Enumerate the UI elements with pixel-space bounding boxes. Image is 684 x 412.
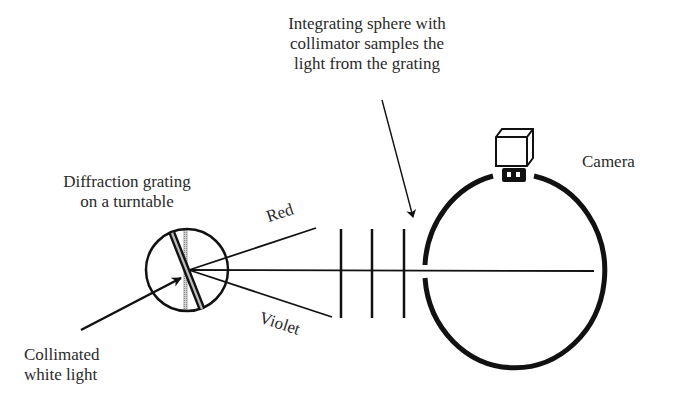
violet-ray-line (189, 270, 332, 317)
input-caption-line-2: white light (24, 365, 100, 385)
grating-caption-line-2: on a turntable (22, 192, 232, 212)
camera-label: Camera (582, 152, 635, 172)
camera-icon (496, 129, 533, 182)
sphere-caption-line-1: Integrating sphere with (262, 14, 472, 34)
sphere-caption-arrow (382, 100, 413, 217)
grating-caption: Diffraction grating on a turntable (22, 172, 232, 212)
grating-caption-line-1: Diffraction grating (22, 172, 232, 192)
input-caption-line-1: Collimated (24, 345, 100, 365)
input-caption: Collimated white light (24, 345, 100, 385)
sphere-caption: Integrating sphere with collimator sampl… (262, 14, 472, 74)
center-beam-line (189, 270, 594, 271)
sphere-caption-line-2: collimator samples the (262, 34, 472, 54)
sphere-caption-line-3: light from the grating (262, 54, 472, 74)
integrating-sphere (425, 176, 605, 368)
collimator-baffles (341, 229, 404, 318)
